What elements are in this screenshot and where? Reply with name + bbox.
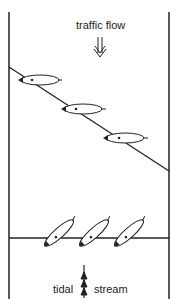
stream-label: stream bbox=[94, 283, 128, 295]
tidal-label: tidal bbox=[53, 283, 73, 295]
boat-icon bbox=[103, 133, 148, 143]
diagram-canvas bbox=[0, 0, 176, 299]
boat-icon bbox=[41, 214, 80, 250]
double-arrow-down-icon bbox=[94, 37, 106, 57]
traffic-flow-label: traffic flow bbox=[76, 19, 125, 31]
boat-icon bbox=[61, 104, 106, 114]
tidal-stream-arrow-icon bbox=[81, 265, 87, 298]
boat-icon bbox=[76, 214, 115, 250]
boat-icon bbox=[111, 214, 150, 250]
